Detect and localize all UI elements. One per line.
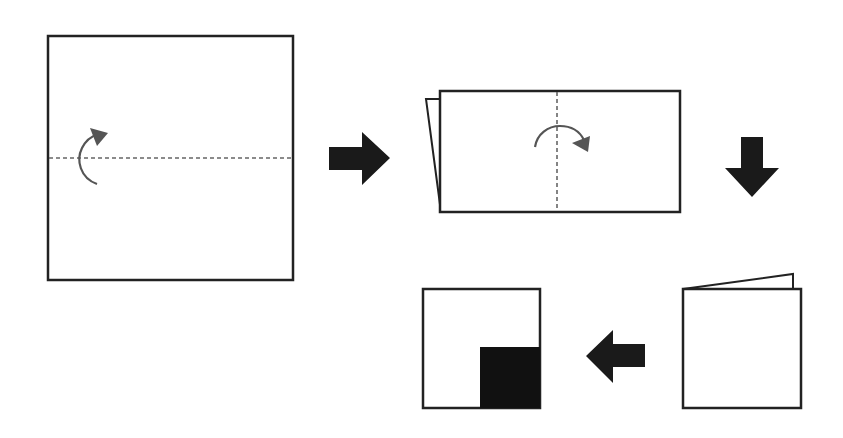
arrow-down-icon [725, 137, 779, 197]
step-4-result-square [423, 289, 540, 408]
arrow-right-icon [329, 132, 390, 185]
folding-diagram [0, 0, 843, 438]
step-1-square [48, 36, 293, 280]
step-2-rectangle [426, 91, 680, 212]
shaded-quadrant [480, 347, 540, 408]
step-3-folded-square [683, 274, 801, 408]
arrow-left-icon [586, 330, 645, 383]
back-layer-edge [683, 274, 793, 289]
